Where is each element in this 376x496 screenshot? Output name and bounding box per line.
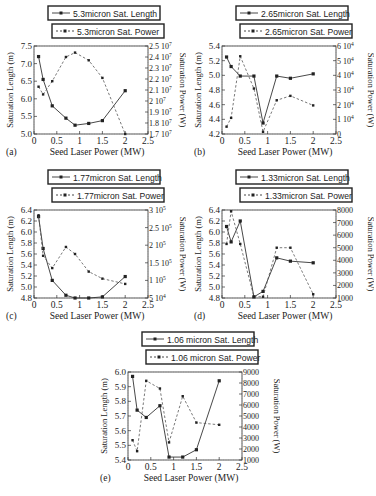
svg-text:6.2: 6.2 <box>209 216 220 226</box>
svg-text:1: 1 <box>77 136 82 146</box>
svg-text:6.0: 6.0 <box>209 227 221 237</box>
svg-text:2.1 107: 2.1 107 <box>149 85 172 95</box>
plot-area <box>222 46 336 134</box>
y-axis-label-left: Saturation Length (m) <box>193 216 203 292</box>
legend-entry-power: 1.06 micron Sat. Power <box>146 350 260 364</box>
svg-text:2: 2 <box>123 300 128 310</box>
panel-label: (c) <box>6 311 17 322</box>
svg-text:4.4: 4.4 <box>209 114 221 124</box>
y-axis-label-left: Saturation Length (m) <box>99 378 109 454</box>
svg-text:4000: 4000 <box>337 256 353 265</box>
svg-text:5.4: 5.4 <box>21 260 33 270</box>
panel-label: (b) <box>194 147 205 158</box>
legend-entry-length: 1.06 micron Sat. Length <box>142 332 258 346</box>
svg-text:7.0: 7.0 <box>21 59 33 69</box>
svg-text:2 107: 2 107 <box>149 96 166 106</box>
chart-svg: 1.33micron Sat. Length1.33micron Sat. Po… <box>192 168 374 328</box>
svg-text:0.5: 0.5 <box>51 300 63 310</box>
y-axis-label-right: Saturation Power (W) <box>178 53 186 128</box>
svg-text:2 105: 2 105 <box>149 240 166 250</box>
panel-label: (e) <box>100 473 111 484</box>
y-axis-right: 01 1042 1043 1044 1045 1046 104 <box>333 41 354 139</box>
svg-text:1 105: 1 105 <box>149 275 166 285</box>
panel-label: (d) <box>194 311 205 322</box>
svg-text:5000: 5000 <box>337 244 353 253</box>
svg-text:1.9 107: 1.9 107 <box>149 107 172 117</box>
svg-text:0: 0 <box>126 462 131 472</box>
svg-text:7000: 7000 <box>243 390 259 399</box>
y-axis-label-right: Saturation Power (W) <box>366 217 374 292</box>
legend-entry-power: 2.65micron Sat. Power <box>240 24 352 38</box>
svg-text:3000: 3000 <box>337 269 353 278</box>
svg-text:0: 0 <box>220 136 225 146</box>
legend-entry-power: 1.77micron Sat. Power <box>52 188 164 202</box>
y-axis-label-right: Saturation Power (W) <box>178 217 186 292</box>
svg-text:5.8: 5.8 <box>21 238 33 248</box>
svg-text:0.5: 0.5 <box>145 462 157 472</box>
svg-text:2 104: 2 104 <box>337 100 354 110</box>
svg-text:4.8: 4.8 <box>209 85 221 95</box>
svg-text:3 105: 3 105 <box>149 205 166 215</box>
svg-text:2: 2 <box>123 136 128 146</box>
svg-text:5.0: 5.0 <box>21 129 33 139</box>
chart-panel-b: 2.65micron Sat. Length2.65micron Sat. Po… <box>192 4 374 168</box>
svg-text:1000: 1000 <box>337 294 353 303</box>
plot-area <box>34 46 148 134</box>
svg-text:5.0: 5.0 <box>209 282 221 292</box>
svg-text:1: 1 <box>265 136 270 146</box>
y-axis-right: 1.7 1071.8 1071.9 1072 1072.1 1072.2 107… <box>145 41 172 139</box>
svg-text:2.5 105: 2.5 105 <box>149 223 172 233</box>
svg-text:4000: 4000 <box>243 423 259 432</box>
svg-text:5.6: 5.6 <box>21 249 33 259</box>
svg-text:0: 0 <box>32 300 37 310</box>
panel-label: (a) <box>6 147 17 158</box>
x-axis-label: Seed Laser Power (MW) <box>144 473 239 484</box>
legend-entry-length: 2.65micron Sat. Length <box>236 6 350 20</box>
legend-label: 2.65micron Sat. Length <box>261 9 350 19</box>
svg-text:4.2: 4.2 <box>209 129 220 139</box>
chart-panel-d: 1.33micron Sat. Length1.33micron Sat. Po… <box>192 168 374 332</box>
svg-text:3 104: 3 104 <box>337 85 354 95</box>
svg-text:4 104: 4 104 <box>337 70 354 80</box>
chart-svg: 1.77micron Sat. Length1.77micron Sat. Po… <box>4 168 186 328</box>
svg-text:7000: 7000 <box>337 219 353 228</box>
svg-text:1: 1 <box>171 462 176 472</box>
svg-text:8000: 8000 <box>337 206 353 215</box>
x-axis-label: Seed Laser Power (MW) <box>50 311 145 322</box>
svg-text:3000: 3000 <box>243 434 259 443</box>
svg-text:1.5: 1.5 <box>96 300 108 310</box>
y-axis-label-left: Saturation Length (m) <box>5 52 15 128</box>
svg-text:5.6: 5.6 <box>209 249 221 259</box>
svg-text:2000: 2000 <box>337 281 353 290</box>
legend-label: 1.33micron Sat. Length <box>261 173 350 183</box>
svg-text:1.5: 1.5 <box>284 136 296 146</box>
svg-text:1.5: 1.5 <box>284 300 296 310</box>
svg-text:5.8: 5.8 <box>209 238 221 248</box>
svg-text:6000: 6000 <box>337 231 353 240</box>
svg-text:5.4: 5.4 <box>209 260 221 270</box>
svg-text:5 104: 5 104 <box>149 293 166 303</box>
svg-text:4.6: 4.6 <box>209 100 221 110</box>
svg-text:1: 1 <box>265 300 270 310</box>
y-axis-label-left: Saturation Length (m) <box>193 52 203 128</box>
legend-label: 1.06 micron Sat. Power <box>171 353 260 363</box>
svg-text:5.5: 5.5 <box>115 440 127 450</box>
svg-text:5.2: 5.2 <box>209 271 220 281</box>
legend-label: 2.65micron Sat. Power <box>265 27 352 37</box>
y-axis-right: 5 1041 1051.5 1052 1052.5 1053 105 <box>145 205 172 303</box>
legend-label: 1.33micron Sat. Power <box>265 191 352 201</box>
legend-label: 5.3micron Sat. Power <box>77 27 159 37</box>
y-axis-label-right: Saturation Power (W) <box>366 53 374 128</box>
svg-text:5.8: 5.8 <box>115 396 127 406</box>
chart-svg: 1.06 micron Sat. Length1.06 micron Sat. … <box>98 330 280 490</box>
svg-text:5.0: 5.0 <box>209 70 221 80</box>
legend-label: 1.77micron Sat. Length <box>73 173 162 183</box>
svg-text:2.4 107: 2.4 107 <box>149 52 172 62</box>
svg-text:2: 2 <box>217 462 222 472</box>
svg-text:5.2: 5.2 <box>21 271 32 281</box>
svg-text:5.4: 5.4 <box>209 41 221 51</box>
svg-text:6.0: 6.0 <box>115 367 127 377</box>
svg-text:1.5: 1.5 <box>190 462 202 472</box>
chart-svg: 5.3micron Sat. Length5.3micron Sat. Powe… <box>4 4 186 164</box>
x-axis-label: Seed Laser Power (MW) <box>238 311 333 322</box>
